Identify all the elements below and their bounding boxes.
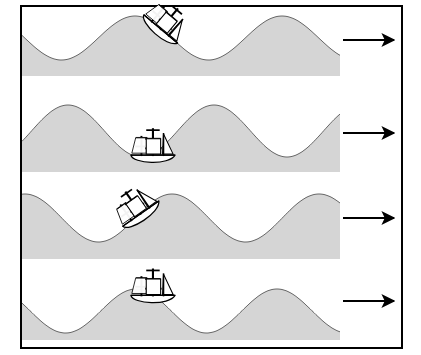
figure-root (0, 0, 421, 355)
wave-phases-diagram (0, 0, 421, 355)
panel-2 (22, 105, 394, 172)
